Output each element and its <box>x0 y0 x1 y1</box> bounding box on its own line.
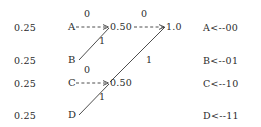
probability-label-c: 0.25 <box>14 79 36 89</box>
leaf-node-a: A <box>68 22 75 32</box>
huffman-tree-figure: upper 0.50 (dashed) --> upper 0.50 (soli… <box>0 0 261 127</box>
probability-label-a: 0.25 <box>14 23 36 33</box>
root-node-10: 1.0 <box>166 22 182 32</box>
probability-label-d: 0.25 <box>14 111 36 121</box>
edge-label-node1-0: 0 <box>141 9 147 19</box>
edge-label-d-1: 1 <box>99 92 105 102</box>
edge-label-a-0: 0 <box>84 9 90 19</box>
internal-node-lower-050: 0.50 <box>110 78 132 88</box>
code-assignment-b: B<--01 <box>203 56 238 66</box>
code-assignment-d: D<--11 <box>203 111 239 121</box>
internal-node-upper-050: 0.50 <box>110 22 132 32</box>
code-assignment-a: A<--00 <box>203 23 238 33</box>
edge-label-b-1: 1 <box>99 36 105 46</box>
leaf-node-c: C <box>68 78 76 88</box>
leaf-node-b: B <box>68 55 76 65</box>
edge-node2-to-root <box>110 27 165 82</box>
probability-label-b: 0.25 <box>14 56 36 66</box>
edge-label-c-0: 0 <box>84 65 90 75</box>
leaf-node-d: D <box>68 110 76 120</box>
code-assignment-c: C<--10 <box>203 79 239 89</box>
edge-label-node2-1: 1 <box>146 55 152 65</box>
